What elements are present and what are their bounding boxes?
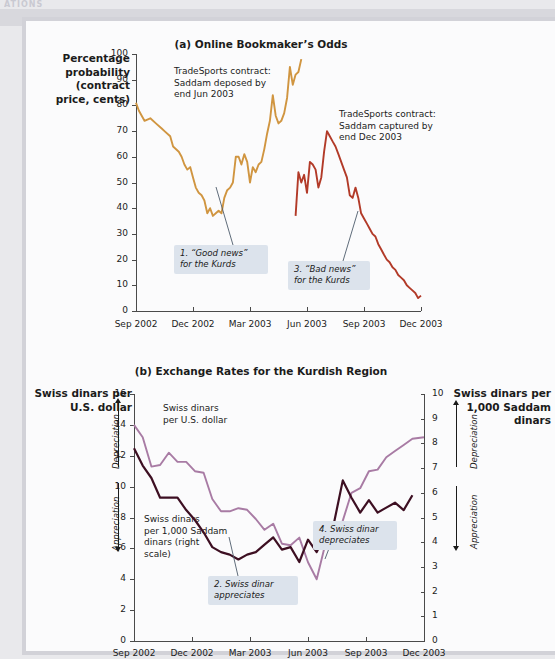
- chart-b-callout-depreciates: 4. Swiss dinar depreciates: [313, 521, 397, 550]
- chart-exchange-rates-kurdish-region: (b) Exchange Rates for the Kurdish Regio…: [26, 341, 555, 651]
- page-background: ATIONS (a) Online Bookmaker’s Odds Perce…: [0, 0, 555, 659]
- chart-a-series-0: [136, 59, 301, 216]
- chart-b-series-0: [134, 425, 424, 579]
- chart-a-plot: [26, 21, 555, 341]
- figure-panel: (a) Online Bookmaker’s Odds Percentage p…: [26, 21, 555, 651]
- chart-b-callout-appreciates: 2. Swiss dinar appreciates: [208, 576, 298, 605]
- chart-a-callout-good-news: 1. “Good news” for the Kurds: [174, 245, 268, 274]
- chart-online-bookmakers-odds: (a) Online Bookmaker’s Odds Percentage p…: [26, 21, 555, 341]
- running-head: ATIONS: [4, 0, 66, 9]
- chart-a-callout-bad-news: 3. “Bad news” for the Kurds: [288, 261, 370, 290]
